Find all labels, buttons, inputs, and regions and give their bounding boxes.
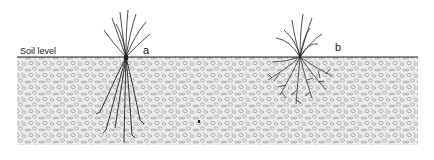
plant-b-shoot — [276, 14, 322, 57]
soil-block — [17, 57, 418, 145]
soil-level-label: Soil level — [20, 47, 56, 56]
plant-b-label: b — [335, 42, 341, 53]
diagram-canvas — [0, 0, 434, 160]
plant-a-label: a — [143, 45, 149, 56]
soil-mark — [198, 120, 200, 123]
